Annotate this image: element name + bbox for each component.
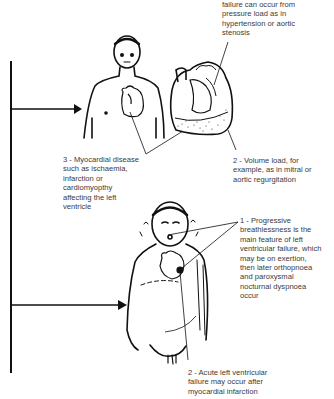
label-progressive-breathlessness: 1 - Progressive breathlessness is the ma… — [240, 216, 321, 301]
arrow-right-icon — [11, 104, 82, 114]
leader-lines-lower — [165, 222, 238, 360]
label-volume-load: 2 - Volume load, for example, as in mitr… — [233, 156, 312, 184]
label-pressure-load: failure can occur from pressure load as … — [222, 0, 295, 38]
patient-figure-upper — [84, 36, 164, 138]
heart-cross-section — [171, 62, 233, 135]
label-myocardial-disease: 3 - Myocardial disease such as ischaemia… — [63, 155, 139, 211]
patient-figure-lower — [127, 202, 208, 364]
arrow-right-icon — [11, 300, 127, 310]
diagram-canvas — [0, 0, 334, 399]
heart-icon — [122, 86, 144, 117]
leader-lines-upper — [130, 42, 236, 154]
label-acute-lvf: 2 - Acute left ventricular failure may o… — [188, 368, 267, 396]
